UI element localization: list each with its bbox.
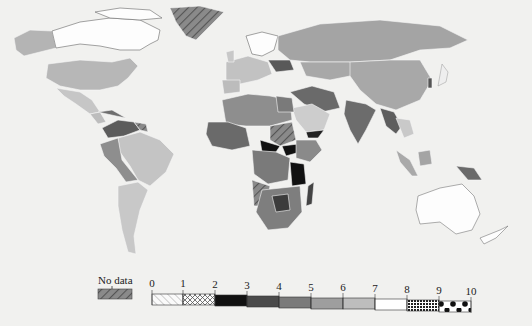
legend-bin-5-6 bbox=[311, 298, 343, 309]
legend bbox=[98, 286, 471, 313]
region-papua-new-guinea bbox=[456, 166, 482, 180]
region-uk bbox=[226, 50, 234, 62]
legend-bin-7-8 bbox=[375, 299, 407, 310]
legend-bin-9-10 bbox=[439, 301, 471, 312]
region-usa bbox=[46, 58, 138, 90]
legend-bin-3-4 bbox=[247, 296, 279, 307]
region-sumatra-java bbox=[396, 150, 418, 176]
world-choropleth-map bbox=[0, 0, 532, 326]
region-scandinavia bbox=[246, 32, 278, 56]
region-china bbox=[350, 60, 432, 110]
legend-no-data-swatch bbox=[98, 289, 132, 299]
asia bbox=[278, 20, 468, 144]
region-australia bbox=[416, 184, 480, 234]
legend-bin-2-3 bbox=[215, 295, 247, 306]
region-japan bbox=[438, 64, 448, 86]
region-mexico bbox=[56, 88, 100, 114]
region-central-america bbox=[90, 112, 106, 124]
legend-bin-8-9 bbox=[407, 300, 439, 311]
region-india bbox=[344, 100, 376, 144]
region-korea bbox=[428, 78, 432, 88]
region-canada-islands bbox=[95, 8, 162, 20]
region-greenland bbox=[170, 6, 224, 40]
north-america bbox=[14, 6, 224, 124]
oceania bbox=[396, 150, 508, 244]
legend-scale-bar bbox=[152, 290, 471, 313]
region-russia bbox=[278, 20, 468, 62]
region-iberia bbox=[222, 80, 240, 94]
region-sudan bbox=[270, 122, 296, 146]
legend-bin-1-2 bbox=[183, 294, 215, 305]
south-america bbox=[100, 120, 174, 254]
region-borneo bbox=[418, 150, 432, 166]
region-alaska bbox=[14, 30, 56, 56]
legend-bin-6-7 bbox=[343, 298, 375, 309]
region-west-africa bbox=[206, 122, 250, 150]
region-argentina-chile bbox=[118, 182, 148, 254]
region-ethiopia-horn bbox=[296, 140, 322, 162]
region-congo bbox=[252, 150, 290, 184]
legend-bin-4-5 bbox=[279, 297, 311, 308]
region-egypt bbox=[276, 96, 294, 112]
region-tanzania bbox=[290, 162, 306, 186]
region-canada bbox=[52, 18, 160, 50]
region-new-zealand bbox=[480, 226, 508, 244]
region-ukraine bbox=[268, 60, 294, 72]
legend-bin-0-1 bbox=[152, 294, 183, 305]
region-madagascar bbox=[306, 182, 314, 206]
